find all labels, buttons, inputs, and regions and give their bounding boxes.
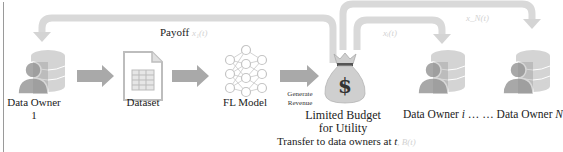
dataset-icon [122,50,164,102]
fl-model-icon [222,44,270,102]
payoff-label: Payoff x₁(t) [160,26,208,38]
arrow-model-to-budget [280,65,320,87]
owner-n-label-prefix: Data Owner [497,108,556,120]
generate-revenue-line1: Generate [280,90,320,99]
owner-n-label-var: N [555,108,563,120]
transfer-caption-math: , B(t) [397,137,416,147]
generate-revenue-label: Generate Revenue [280,90,320,108]
transfer-caption-text: Transfer to data owners at [277,135,394,147]
arrow-owner-to-dataset [77,65,115,87]
svg-text:$: $ [338,74,352,98]
transfer-caption: Transfer to data owners at t, B(t) [277,135,416,147]
money-bag-icon: $ [322,50,368,104]
data-owner-1-icon [18,48,66,94]
data-owners-i-n-label: Data Owner i … … Data Owner N [403,108,563,120]
payoff-math: x₁(t) [192,28,208,38]
data-owner-1-label-line1: Data Owner [4,96,64,109]
fl-model-label: FL Model [215,96,275,108]
owner-i-allocation-label: xᵢ(t) [383,28,397,38]
arrow-dataset-to-model [172,65,210,87]
data-owner-n-icon [503,48,551,94]
owner-i-label-prefix: Data Owner [403,108,462,120]
data-owner-1-label: Data Owner 1 [4,96,64,122]
owner-n-allocation-label: x_N(t) [466,13,489,23]
data-owner-1-label-line2: 1 [4,109,64,122]
dataset-label: Dataset [118,96,168,108]
owner-ellipsis: … … [465,108,497,120]
budget-label: Limited Budget for Utility [300,109,386,135]
payoff-text: Payoff [160,26,189,38]
generate-revenue-line2: Revenue [280,99,320,108]
budget-label-line2: for Utility [300,122,386,135]
data-owner-i-icon [418,48,466,94]
